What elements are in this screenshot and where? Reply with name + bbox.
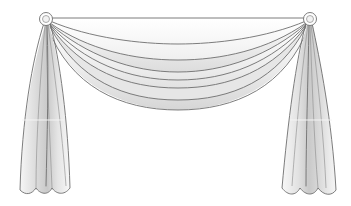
left-rosette-icon [40, 13, 53, 26]
right-rosette-icon [304, 13, 317, 26]
drapery-illustration: Swag and jabot window drapery illustrati… [0, 0, 351, 206]
drapery-drawing [0, 0, 351, 206]
center-swag [46, 18, 310, 110]
